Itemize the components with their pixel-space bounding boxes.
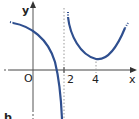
- y-axis: [30, 1, 36, 119]
- x-axis-label: x: [129, 73, 136, 86]
- y-arrow-icon: [30, 1, 36, 8]
- curve-right-branch: [68, 17, 125, 59]
- y-axis-label: y: [22, 4, 29, 17]
- tick-label-4: 4: [92, 73, 99, 86]
- origin-label: O: [24, 72, 33, 85]
- figure-label: b: [4, 111, 12, 119]
- curve-left-branch: [13, 23, 62, 119]
- tick-label-2: 2: [67, 73, 74, 86]
